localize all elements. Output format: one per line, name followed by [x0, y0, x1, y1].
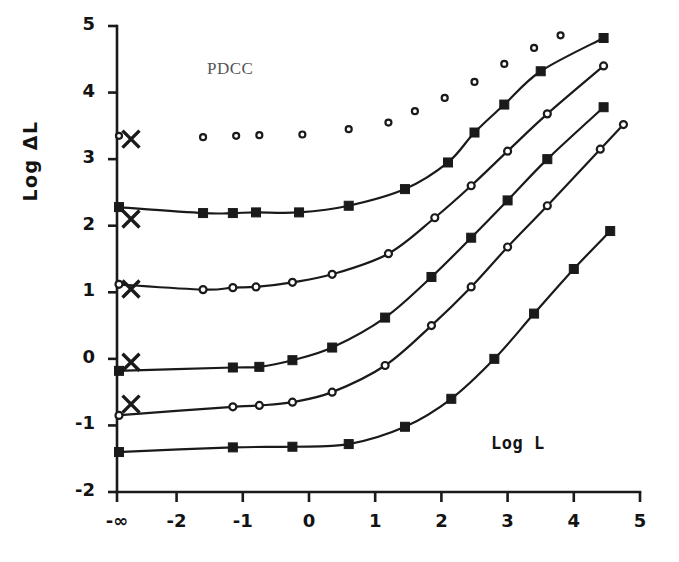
x-tick-label: 0: [284, 510, 334, 531]
y-tick-label: 4: [55, 80, 95, 101]
y-tick-label: 2: [55, 213, 95, 234]
y-tick-label: 3: [55, 146, 95, 167]
x-tick-label: 3: [483, 510, 533, 531]
y-tick-label: -2: [55, 479, 95, 500]
x-tick-label: -2: [152, 510, 202, 531]
y-tick-label: 1: [55, 279, 95, 300]
tick-label-layer: 543210-1-2-∞-2-1012345: [0, 0, 679, 562]
x-tick-label: 2: [416, 510, 466, 531]
chart-figure: Log ΔL Log L PDCC 543210-1-2-∞-2-1012345: [0, 0, 679, 562]
x-tick-label: -∞: [92, 510, 142, 531]
x-tick-label: 4: [549, 510, 599, 531]
y-tick-label: 0: [55, 346, 95, 367]
x-tick-label: -1: [218, 510, 268, 531]
x-tick-label: 5: [615, 510, 665, 531]
x-tick-label: 1: [350, 510, 400, 531]
y-tick-label: 5: [55, 13, 95, 34]
y-tick-label: -1: [55, 412, 95, 433]
